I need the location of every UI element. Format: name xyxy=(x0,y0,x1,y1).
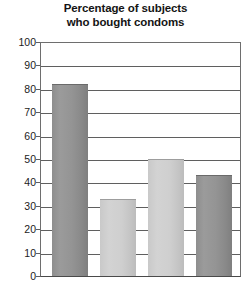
y-axis: 1009080706050403020100 xyxy=(0,42,36,277)
y-tick-label: 70 xyxy=(0,107,36,117)
bars-layer xyxy=(41,43,240,276)
y-tick-label: 50 xyxy=(0,154,36,164)
y-tick-label: 80 xyxy=(0,84,36,94)
y-tick-label: 90 xyxy=(0,60,36,70)
chart-title-line-2: who bought condoms xyxy=(0,16,251,30)
chart-title-line-1: Percentage of subjects xyxy=(0,2,251,16)
y-tick-label: 60 xyxy=(0,131,36,141)
bar xyxy=(100,199,136,276)
y-tick-label: 20 xyxy=(0,224,36,234)
chart-title: Percentage of subjects who bought condom… xyxy=(0,2,251,29)
y-tick-label: 0 xyxy=(0,271,36,281)
bar xyxy=(52,84,88,276)
bar-chart-figure: Percentage of subjects who bought condom… xyxy=(0,0,251,288)
bar xyxy=(148,159,184,276)
bar xyxy=(196,175,232,276)
y-tick-label: 10 xyxy=(0,248,36,258)
y-tick-label: 40 xyxy=(0,177,36,187)
plot-area xyxy=(40,42,241,277)
y-tick-label: 30 xyxy=(0,201,36,211)
y-tick-label: 100 xyxy=(0,37,36,47)
